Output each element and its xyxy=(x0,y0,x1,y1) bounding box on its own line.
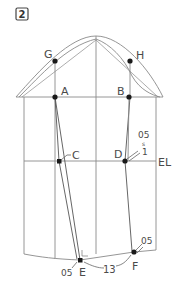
label-d: D xyxy=(114,148,122,161)
e-offset: 05 xyxy=(61,268,72,278)
point-b xyxy=(126,94,131,99)
ef-length: 13 xyxy=(103,264,116,275)
label-h: H xyxy=(136,49,144,62)
leader-lines xyxy=(61,151,143,268)
step-number: 2 xyxy=(19,9,26,20)
d-offset-bottom: 1 xyxy=(142,147,148,157)
label-e: E xyxy=(79,266,86,279)
label-c: C xyxy=(72,149,80,162)
point-d xyxy=(122,158,127,163)
step-number-badge: 2 xyxy=(16,8,28,20)
point-labels: G H A B C D EL E F xyxy=(44,48,172,279)
f-offset: 05 xyxy=(141,236,152,246)
label-a: A xyxy=(61,85,69,98)
d-offset-top: 05 xyxy=(138,130,149,140)
sleeve-cap-curves xyxy=(16,36,163,97)
label-el: EL xyxy=(158,156,172,169)
label-b: B xyxy=(117,85,125,98)
point-g xyxy=(52,58,57,63)
point-e xyxy=(78,258,83,263)
point-a xyxy=(52,94,57,99)
label-g: G xyxy=(44,48,53,61)
point-h xyxy=(127,58,132,63)
pattern-frame-lines xyxy=(16,36,163,260)
d-offset-separator: s xyxy=(142,140,145,147)
seam-lines xyxy=(55,97,132,260)
point-f xyxy=(131,249,136,254)
label-f: F xyxy=(132,260,138,273)
sleeve-pattern-diagram: 2 xyxy=(0,0,179,294)
